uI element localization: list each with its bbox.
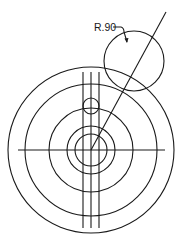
technical-drawing: R.90 [0, 0, 183, 243]
leader-arrowhead-icon [125, 38, 129, 43]
radius-dimension-label: R.90 [94, 21, 116, 33]
radius-circle [104, 31, 164, 91]
